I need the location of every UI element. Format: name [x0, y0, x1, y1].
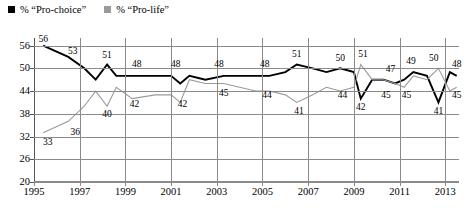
data-point-label-pro-choice: 51: [292, 51, 302, 61]
data-point-label-pro-choice: 53: [68, 47, 78, 57]
x-axis-tick-mark: [34, 182, 35, 186]
y-axis-tick-mark: [30, 114, 34, 115]
legend-label-pro-life: % “Pro-life”: [116, 4, 169, 15]
gridline-vertical: [80, 38, 81, 182]
data-point-label-pro-life: 40: [102, 111, 112, 121]
x-axis-tick-label: 1995: [24, 187, 45, 198]
data-point-label-pro-choice: 48: [171, 60, 181, 70]
x-axis-tick-mark: [445, 182, 446, 186]
x-axis-tick-mark: [400, 182, 401, 186]
y-axis-tick-mark: [30, 137, 34, 138]
data-point-label-pro-choice: 50: [335, 54, 345, 64]
legend-item-pro-choice: % “Pro-choice”: [8, 4, 86, 15]
series-layer: [34, 38, 459, 182]
chart-legend: % “Pro-choice” % “Pro-life”: [8, 4, 169, 15]
x-axis-tick-label: 2001: [161, 187, 182, 198]
x-axis-tick-label: 1999: [115, 187, 136, 198]
gridline-horizontal: [34, 114, 459, 115]
legend-item-pro-life: % “Pro-life”: [104, 4, 169, 15]
x-axis-tick-mark: [308, 182, 309, 186]
data-point-label-pro-choice: 41: [434, 107, 444, 117]
y-axis-tick-label: 32: [20, 131, 31, 142]
data-point-label-pro-life: 45: [219, 90, 229, 100]
y-axis-tick-label: 56: [20, 40, 31, 51]
x-axis-tick-mark: [171, 182, 172, 186]
y-axis-tick-mark: [30, 91, 34, 92]
data-point-label-pro-life: 36: [70, 129, 80, 139]
data-point-label-pro-life: 42: [178, 100, 188, 110]
x-axis-tick-label: 2005: [252, 187, 273, 198]
series-line-pro-life: [43, 65, 457, 133]
gridline-vertical: [445, 38, 446, 182]
data-point-label-pro-choice: 48: [260, 60, 270, 70]
gridline-vertical: [308, 38, 309, 182]
data-point-label-pro-life: 44: [262, 92, 272, 102]
x-axis-tick-mark: [354, 182, 355, 186]
data-point-label-pro-choice: 51: [102, 51, 112, 61]
data-point-label-pro-choice: 48: [214, 60, 224, 70]
data-point-label-pro-life: 45: [402, 92, 412, 102]
x-axis-tick-label: 2011: [389, 187, 410, 198]
data-point-label-pro-life: 44: [338, 92, 348, 102]
data-point-label-pro-life: 45: [452, 92, 462, 102]
data-point-label-pro-choice: 42: [356, 104, 366, 114]
data-point-label-pro-life: 42: [130, 100, 140, 110]
x-axis-tick-mark: [80, 182, 81, 186]
gridline-horizontal: [34, 182, 459, 183]
y-axis-tick-mark: [30, 46, 34, 47]
legend-swatch-pro-life: [104, 6, 111, 13]
x-axis-tick-mark: [217, 182, 218, 186]
x-axis-tick-mark: [125, 182, 126, 186]
gridline-vertical: [354, 38, 355, 182]
data-point-label-pro-choice: 48: [132, 60, 142, 70]
x-axis-tick-label: 2007: [298, 187, 319, 198]
x-axis-tick-mark: [262, 182, 263, 186]
plot-area: 2026323844505619951997199920012003200520…: [34, 38, 459, 182]
gridline-horizontal: [34, 137, 459, 138]
gridline-vertical: [125, 38, 126, 182]
y-axis-tick-label: 44: [20, 86, 31, 97]
abortion-attitudes-line-chart: % “Pro-choice” % “Pro-life” 202632384450…: [0, 0, 469, 208]
data-point-label-pro-choice: 47: [386, 65, 396, 75]
legend-swatch-pro-choice: [8, 6, 15, 13]
data-point-label-pro-life: 41: [294, 108, 304, 118]
data-point-label-pro-life: 50: [429, 54, 439, 64]
y-axis-tick-mark: [30, 159, 34, 160]
gridline-horizontal: [34, 159, 459, 160]
y-axis-tick-label: 50: [20, 63, 31, 74]
y-axis-tick-mark: [30, 68, 34, 69]
data-point-label-pro-life: 51: [358, 51, 368, 61]
data-point-label-pro-life: 33: [43, 138, 53, 148]
data-point-label-pro-choice: 56: [38, 36, 48, 46]
x-axis-tick-label: 2013: [435, 187, 456, 198]
y-axis-tick-label: 38: [20, 109, 31, 120]
x-axis-tick-label: 1997: [69, 187, 90, 198]
x-axis-tick-label: 2009: [343, 187, 364, 198]
data-point-label-pro-choice: 49: [406, 57, 416, 67]
data-point-label-pro-life: 45: [381, 92, 391, 102]
gridline-horizontal: [34, 91, 459, 92]
x-axis-tick-label: 2003: [206, 187, 227, 198]
y-axis-tick-label: 26: [20, 154, 31, 165]
data-point-label-pro-choice: 48: [452, 60, 462, 70]
legend-label-pro-choice: % “Pro-choice”: [20, 4, 86, 15]
gridline-vertical: [400, 38, 401, 182]
gridline-horizontal: [34, 46, 459, 47]
